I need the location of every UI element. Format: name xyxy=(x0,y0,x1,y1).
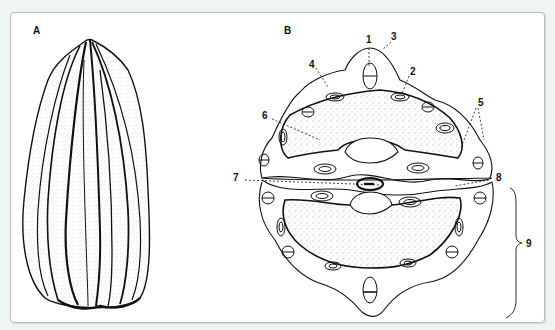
callout-9: 9 xyxy=(526,238,532,249)
callout-3: 3 xyxy=(391,31,397,42)
callout-8: 8 xyxy=(496,172,502,183)
cross-section-illustration xyxy=(245,42,522,318)
callout-1: 1 xyxy=(366,34,372,45)
callout-6: 6 xyxy=(262,110,268,121)
callout-2: 2 xyxy=(410,66,416,77)
diagram-drawing xyxy=(0,0,555,330)
panel-label-a: A xyxy=(33,25,40,36)
callout-4: 4 xyxy=(309,59,315,70)
callout-7: 7 xyxy=(233,172,239,183)
panel-label-b: B xyxy=(284,25,291,36)
fruit-illustration xyxy=(23,39,150,308)
callout-5: 5 xyxy=(478,97,484,108)
